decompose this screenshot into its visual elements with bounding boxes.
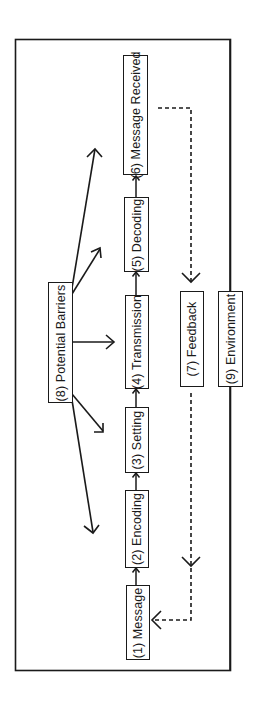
- node-decoding: (5) Decoding: [124, 197, 149, 272]
- node-label: (9) Environment: [224, 294, 238, 384]
- node-label: (8) Potential Barriers: [54, 284, 68, 401]
- node-encoding: (2) Encoding: [125, 490, 149, 568]
- node-potential-barriers: (8) Potential Barriers: [48, 282, 73, 403]
- node-environment: (9) Environment: [218, 291, 243, 387]
- node-transmission: (4) Transmission: [125, 295, 149, 389]
- flow-arrow-3-4: [133, 389, 140, 407]
- node-feedback: (7) Feedback: [180, 291, 204, 387]
- node-label: (2) Encoding: [130, 493, 144, 565]
- node-message: (1) Message: [126, 585, 150, 660]
- flow-arrow-5-6: [133, 176, 140, 197]
- node-message-received: (6) Message Received: [123, 55, 148, 175]
- node-label: (4) Transmission: [130, 295, 144, 389]
- node-label: (6) Message Received: [129, 51, 143, 178]
- node-setting: (3) Setting: [125, 407, 149, 473]
- communication-process-diagram: (6) Message Received (5) Decoding (4) Tr…: [0, 0, 259, 704]
- node-label: (3) Setting: [130, 411, 144, 470]
- node-label: (7) Feedback: [185, 302, 199, 377]
- flow-arrow-1-2: [133, 568, 140, 585]
- node-label: (5) Decoding: [130, 198, 144, 271]
- flow-arrow-4-5: [133, 272, 140, 295]
- barrier-arrows: [72, 149, 114, 533]
- flow-arrow-2-3: [133, 473, 140, 490]
- node-label: (1) Message: [131, 587, 145, 658]
